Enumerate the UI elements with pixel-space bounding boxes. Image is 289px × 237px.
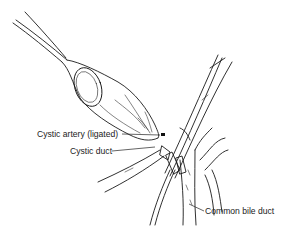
anatomical-figure: Cystic artery (ligated) Cystic duct Comm… bbox=[0, 0, 289, 237]
label-cystic-artery: Cystic artery (ligated) bbox=[37, 130, 118, 139]
forceps-shaft bbox=[13, 12, 67, 62]
ligature-clip bbox=[161, 133, 165, 136]
leader-cystic-artery bbox=[122, 134, 160, 135]
leader-cystic-duct bbox=[112, 147, 155, 151]
line-drawing bbox=[0, 0, 289, 237]
leader-common-bile-duct bbox=[189, 204, 204, 211]
label-cystic-duct: Cystic duct bbox=[70, 147, 112, 156]
label-common-bile-duct: Common bile duct bbox=[205, 207, 274, 216]
